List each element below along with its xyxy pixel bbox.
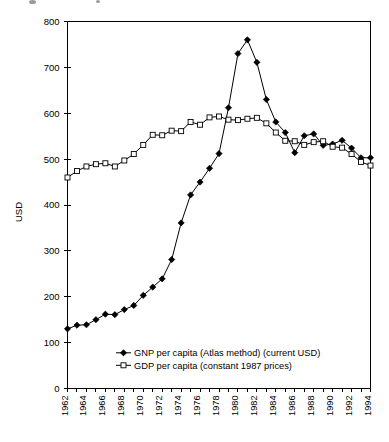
x-tick-label: 1976 (192, 396, 202, 416)
data-point-marker (245, 116, 250, 121)
x-tick-label: 1974 (173, 396, 183, 416)
data-point-marker (131, 152, 136, 157)
x-tick-label: 1968 (116, 396, 126, 416)
data-point-marker (359, 159, 364, 164)
data-point-marker (103, 161, 108, 166)
x-tick-label: 1984 (268, 396, 278, 416)
legend-label: GNP per capita (Atlas method) (current U… (134, 348, 320, 358)
data-point-marker (273, 130, 278, 135)
y-axis-title: USD (13, 202, 24, 222)
data-point-marker (235, 51, 241, 57)
data-point-marker (340, 145, 345, 150)
x-tick-label: 1994 (363, 396, 373, 416)
data-point-marker (226, 117, 231, 122)
data-point-marker (84, 164, 89, 169)
data-point-marker (198, 122, 203, 127)
series-gdp-per-capita (65, 114, 373, 180)
data-point-marker (188, 119, 193, 124)
data-point-marker (93, 162, 98, 167)
x-tick-label: 1980 (230, 396, 240, 416)
x-tick-label: 1982 (249, 396, 259, 416)
data-point-marker (179, 129, 184, 134)
chart-figure: 0100200300400500600700800 19621964196619… (0, 0, 389, 442)
data-point-marker (367, 155, 373, 161)
data-point-marker (112, 164, 117, 169)
x-axis-tick-labels: 1962196419661968197019721974197619781980… (60, 396, 373, 416)
data-point-marker (207, 115, 212, 120)
data-point-marker (225, 105, 231, 111)
data-point-marker (64, 326, 70, 332)
y-tick-label: 0 (54, 383, 59, 394)
data-point-marker (93, 317, 99, 323)
y-tick-label: 400 (44, 199, 60, 210)
data-point-marker (264, 121, 269, 126)
x-tick-label: 1986 (287, 396, 297, 416)
data-point-marker (206, 165, 212, 171)
series-line (68, 40, 371, 329)
y-tick-label: 100 (44, 337, 60, 348)
data-point-marker (321, 139, 326, 144)
data-point-marker (292, 150, 298, 156)
x-tick-label: 1964 (78, 396, 88, 416)
x-tick-label: 1978 (211, 396, 221, 416)
legend-label: GDP per capita (constant 1987 prices) (134, 361, 292, 371)
data-point-marker (302, 142, 307, 147)
data-point-marker (83, 322, 89, 328)
data-point-marker (74, 169, 79, 174)
x-tick-label: 1970 (135, 396, 145, 416)
data-point-marker (311, 140, 316, 145)
y-tick-label: 300 (44, 245, 60, 256)
x-tick-label: 1992 (344, 396, 354, 416)
y-tick-label: 600 (44, 108, 60, 119)
data-point-marker (330, 144, 335, 149)
data-point-marker (120, 350, 126, 356)
y-tick-label: 200 (44, 291, 60, 302)
series-gnp-per-capita (64, 37, 373, 332)
data-point-marker (217, 114, 222, 119)
data-point-marker (216, 151, 222, 157)
legend-item: GDP per capita (constant 1987 prices) (116, 361, 292, 371)
series-markers (65, 114, 373, 180)
x-tick-label: 1972 (154, 396, 164, 416)
data-point-marker (292, 139, 297, 144)
data-point-marker (349, 152, 354, 157)
data-point-marker (65, 175, 70, 180)
data-point-marker (254, 59, 260, 65)
data-point-marker (235, 118, 240, 123)
line-chart: 0100200300400500600700800 19621964196619… (0, 0, 389, 442)
data-point-marker (301, 133, 307, 139)
series-markers (64, 37, 373, 332)
data-point-marker (169, 128, 174, 133)
chart-legend: GNP per capita (Atlas method) (current U… (116, 348, 320, 371)
y-axis-tick-labels: 0100200300400500600700800 (44, 16, 60, 394)
data-point-marker (160, 133, 165, 138)
x-tick-label: 1962 (60, 396, 70, 416)
chart-axes (68, 22, 371, 389)
x-tick-label: 1990 (325, 396, 335, 416)
x-tick-label: 1966 (97, 396, 107, 416)
data-point-marker (122, 158, 127, 163)
data-point-marker (121, 306, 127, 312)
data-point-marker (74, 322, 80, 328)
data-point-marker (150, 132, 155, 137)
x-tick-label: 1988 (306, 396, 316, 416)
y-tick-label: 500 (44, 154, 60, 165)
data-point-marker (263, 96, 269, 102)
data-point-marker (141, 142, 146, 147)
data-point-marker (112, 312, 118, 318)
data-point-marker (178, 220, 184, 226)
y-tick-label: 700 (44, 62, 60, 73)
data-point-marker (169, 256, 175, 262)
chart-series-layer (64, 37, 373, 332)
data-point-marker (254, 115, 259, 120)
data-point-marker (102, 311, 108, 317)
data-point-marker (244, 37, 250, 43)
scan-artifact-strip (0, 0, 389, 7)
data-point-marker (283, 138, 288, 143)
data-point-marker (368, 163, 373, 168)
data-point-marker (121, 363, 126, 368)
y-tick-label: 800 (44, 16, 60, 27)
legend-item: GNP per capita (Atlas method) (current U… (116, 348, 320, 358)
